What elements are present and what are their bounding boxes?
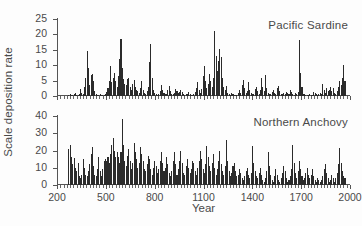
y-tick-label: 0 <box>41 89 47 101</box>
x-tick <box>246 96 247 99</box>
y-tick-label: 30 <box>35 126 47 138</box>
x-tick <box>288 96 289 99</box>
bar <box>344 178 345 185</box>
y-tick-label: 25 <box>35 12 47 24</box>
x-tick <box>96 96 97 99</box>
x-tick <box>295 96 296 99</box>
x-tick <box>347 96 348 99</box>
x-tick <box>93 96 94 99</box>
x-tick <box>194 96 195 99</box>
plot-area-sardine: 0510152025 <box>57 18 350 96</box>
x-tick <box>99 96 100 99</box>
x-tick <box>327 96 328 99</box>
x-tick <box>109 96 110 99</box>
x-tick <box>80 96 81 99</box>
x-tick <box>171 96 172 99</box>
y-tick: 10 <box>53 65 57 66</box>
x-tick <box>236 96 237 99</box>
x-tick <box>304 96 305 99</box>
x-tick <box>168 96 169 99</box>
x-tick <box>337 96 338 99</box>
x-tick <box>230 96 231 99</box>
x-tick <box>278 96 279 99</box>
x-tick <box>148 96 149 99</box>
x-tick <box>350 185 351 189</box>
x-tick <box>334 96 335 99</box>
x-tick <box>197 96 198 99</box>
y-axis-label: Scale deposition rate <box>2 4 18 200</box>
x-tick <box>204 96 205 100</box>
x-tick <box>301 96 302 100</box>
y-tick-label: 20 <box>35 27 47 39</box>
y-tick-label: 10 <box>35 161 47 173</box>
x-tick <box>340 96 341 99</box>
y-tick: 5 <box>53 81 57 82</box>
x-tick <box>311 96 312 99</box>
x-tick <box>350 96 351 100</box>
x-tick <box>181 96 182 99</box>
x-tick <box>177 96 178 99</box>
x-tick <box>220 96 221 99</box>
x-tick <box>138 96 139 99</box>
x-tick <box>330 96 331 99</box>
figure-panel: Scale deposition rate Pacific Sardine 05… <box>0 0 362 226</box>
x-tick <box>125 96 126 99</box>
x-tick <box>298 96 299 99</box>
y-tick-label: 0 <box>41 178 47 190</box>
bar <box>344 81 345 96</box>
x-tick <box>158 96 159 99</box>
x-tick <box>116 96 117 99</box>
x-tick <box>86 96 87 99</box>
x-tick <box>187 96 188 99</box>
x-tick <box>343 96 344 99</box>
x-tick <box>90 96 91 99</box>
x-tick <box>213 96 214 99</box>
x-tick <box>262 96 263 99</box>
x-tick <box>321 96 322 99</box>
x-axis-tick-labels: 2005008001100140017002000 <box>57 185 350 201</box>
x-tick <box>142 96 143 99</box>
x-tick <box>285 96 286 99</box>
x-tick <box>184 96 185 99</box>
x-tick <box>151 96 152 99</box>
x-tick <box>64 96 65 99</box>
x-tick <box>112 96 113 99</box>
x-tick <box>60 96 61 99</box>
x-tick <box>324 96 325 99</box>
y-tick-label: 15 <box>35 43 47 55</box>
x-tick <box>207 96 208 99</box>
x-tick <box>73 96 74 99</box>
x-tick <box>210 96 211 99</box>
bar-series-anchovy <box>57 115 350 185</box>
x-tick <box>67 96 68 99</box>
x-tick <box>132 96 133 99</box>
x-tick <box>259 96 260 99</box>
bar-series-sardine <box>57 18 350 96</box>
x-tick <box>174 96 175 99</box>
x-tick <box>269 96 270 99</box>
y-tick-label: 40 <box>35 109 47 121</box>
x-tick <box>161 96 162 99</box>
x-tick <box>291 96 292 99</box>
y-tick: 40 <box>53 116 57 117</box>
x-tick <box>243 96 244 99</box>
x-tick <box>83 96 84 99</box>
x-tick <box>106 96 107 100</box>
x-tick <box>145 96 146 99</box>
x-tick <box>129 96 130 99</box>
x-tick <box>252 96 253 100</box>
x-tick <box>308 96 309 99</box>
x-tick <box>314 96 315 99</box>
x-axis-label: Year <box>57 202 350 214</box>
x-tick <box>164 96 165 99</box>
x-tick <box>103 96 104 99</box>
y-tick: 20 <box>53 34 57 35</box>
y-tick: 25 <box>53 19 57 20</box>
chart-northern-anchovy: Northern Anchovy 010203040 <box>57 115 350 185</box>
y-tick: 15 <box>53 50 57 51</box>
x-tick <box>317 96 318 99</box>
x-tick <box>77 96 78 99</box>
x-tick <box>217 96 218 99</box>
x-tick <box>122 96 123 99</box>
y-tick: 30 <box>53 133 57 134</box>
